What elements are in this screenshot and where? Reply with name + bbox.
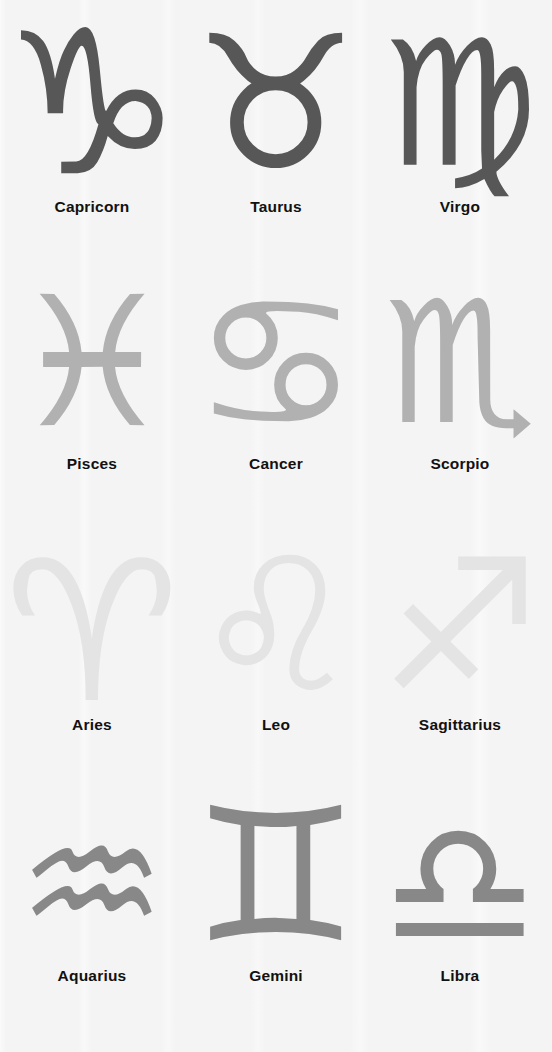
gemini-icon: ♊ — [193, 784, 359, 969]
glyph-container: ♍ — [368, 0, 552, 204]
taurus-icon: ♉ — [193, 12, 359, 197]
glyph-container: ♌ — [184, 526, 368, 726]
glyph-container: ♏ — [368, 263, 552, 463]
zodiac-cell-pisces[interactable]: ♓ Pisces — [0, 263, 184, 526]
glyph-container: ♋ — [184, 263, 368, 463]
zodiac-cell-capricorn[interactable]: ♑ Capricorn — [0, 0, 184, 263]
leo-icon: ♌ — [193, 534, 359, 719]
sagittarius-icon: ♐ — [379, 536, 540, 716]
glyph-container: ♑ — [0, 0, 184, 204]
zodiac-label-leo: Leo — [262, 716, 290, 734]
pisces-icon: ♓ — [11, 273, 172, 453]
zodiac-label-cancer: Cancer — [249, 455, 303, 473]
zodiac-label-sagittarius: Sagittarius — [419, 716, 501, 734]
zodiac-cell-aries[interactable]: ♈ Aries — [0, 526, 184, 789]
zodiac-label-virgo: Virgo — [440, 198, 480, 216]
glyph-container: ♎ — [368, 789, 552, 979]
zodiac-grid: ♑ Capricorn ♉ Taurus ♍ Virgo ♓ Pisces ♋ — [0, 0, 552, 1052]
zodiac-cell-libra[interactable]: ♎ Libra — [368, 789, 552, 1052]
zodiac-label-pisces: Pisces — [67, 455, 117, 473]
zodiac-label-libra: Libra — [441, 967, 480, 985]
zodiac-poster: ♑ Capricorn ♉ Taurus ♍ Virgo ♓ Pisces ♋ — [0, 0, 552, 1052]
glyph-container: ♓ — [0, 263, 184, 463]
zodiac-cell-cancer[interactable]: ♋ Cancer — [184, 263, 368, 526]
zodiac-cell-gemini[interactable]: ♊ Gemini — [184, 789, 368, 1052]
scorpio-icon: ♏ — [384, 278, 536, 448]
zodiac-label-taurus: Taurus — [250, 198, 302, 216]
glyph-container: ♐ — [368, 526, 552, 726]
virgo-icon: ♍ — [382, 17, 539, 192]
cancer-icon: ♋ — [193, 271, 359, 456]
zodiac-cell-aquarius[interactable]: ♒ Aquarius — [0, 789, 184, 1052]
libra-icon: ♎ — [382, 797, 539, 972]
glyph-container: ♉ — [184, 0, 368, 204]
glyph-container: ♒ — [0, 789, 184, 979]
zodiac-cell-sagittarius[interactable]: ♐ Sagittarius — [368, 526, 552, 789]
aquarius-icon: ♒ — [18, 802, 166, 967]
glyph-container: ♊ — [184, 789, 368, 979]
zodiac-cell-taurus[interactable]: ♉ Taurus — [184, 0, 368, 263]
aries-icon: ♈ — [5, 535, 180, 730]
zodiac-label-capricorn: Capricorn — [54, 198, 129, 216]
glyph-container: ♈ — [0, 526, 184, 726]
zodiac-cell-scorpio[interactable]: ♏ Scorpio — [368, 263, 552, 526]
zodiac-cell-leo[interactable]: ♌ Leo — [184, 526, 368, 789]
zodiac-label-aquarius: Aquarius — [58, 967, 127, 985]
zodiac-label-scorpio: Scorpio — [430, 455, 489, 473]
zodiac-cell-virgo[interactable]: ♍ Virgo — [368, 0, 552, 263]
capricorn-icon: ♑ — [2, 4, 181, 204]
